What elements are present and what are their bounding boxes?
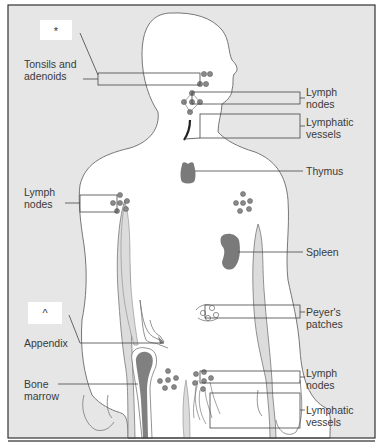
label-lymph-nodes-axilla: Lymph nodes [24,186,55,210]
marker-top-text: * [54,25,58,37]
marker-bottom-text: ^ [42,307,47,319]
marker-box-bottom: ^ [28,302,62,324]
thymus [181,162,196,183]
label-spleen: Spleen [306,246,339,258]
label-appendix: Appendix [24,337,68,349]
lymphatic-system-diagram: * ^ Tonsils and adenoids Lymph nodes Lym… [0,0,383,446]
label-lymphatic-vessels-groin: Lymphatic vessels [306,404,353,428]
marker-box-top: * [40,20,72,40]
label-lymphatic-vessels-neck: Lymphatic vessels [306,116,353,140]
label-bone-marrow: Bone marrow [24,378,59,402]
label-lymph-nodes-neck: Lymph nodes [306,86,337,110]
label-peyers-patches: Peyer's patches [306,306,343,330]
label-thymus: Thymus [306,165,343,177]
label-tonsils-adenoids: Tonsils and adenoids [24,58,77,82]
label-lymph-nodes-groin: Lymph nodes [306,367,337,391]
